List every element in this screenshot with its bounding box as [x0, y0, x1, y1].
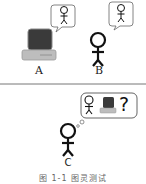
label-b: B — [89, 64, 109, 77]
figure-caption: 图 1-1 图灵测试 — [0, 172, 146, 183]
label-a: A — [29, 64, 49, 77]
question-mark: ? — [119, 93, 129, 115]
speech-bubble-b — [109, 2, 133, 30]
speech-bubble-a — [51, 5, 75, 32]
label-c: C — [58, 157, 78, 168]
computer-icon — [22, 29, 56, 60]
human-icon-c — [61, 124, 75, 156]
human-icon-b — [91, 33, 105, 66]
